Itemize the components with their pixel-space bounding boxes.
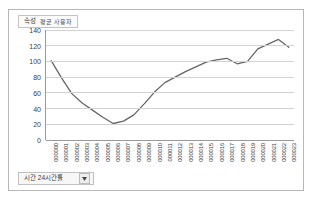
- x-axis-tick-label: 000015: [208, 143, 214, 162]
- plot-area: [45, 30, 294, 140]
- y-axis-tick-label: 140: [29, 27, 41, 34]
- x-axis-tick-label: 000007: [125, 143, 131, 162]
- chart-panel: 속성 평균 사용자 140120100806040200 00000000000…: [8, 9, 304, 191]
- legend-title: 속성: [24, 18, 36, 25]
- gridline: [46, 108, 294, 109]
- chevron-down-icon[interactable]: [79, 173, 90, 184]
- y-axis-tick-label: 40: [33, 105, 41, 112]
- x-axis-tick-label: 000022: [281, 143, 287, 162]
- x-axis-tick-label: 000008: [136, 143, 142, 162]
- gridline: [46, 77, 294, 78]
- x-axis-tick-label: 000023: [291, 143, 297, 162]
- x-axis-tick-label: 000004: [94, 143, 100, 162]
- gridline: [46, 30, 294, 31]
- gridline: [46, 45, 294, 46]
- legend: 속성 평균 사용자: [18, 15, 78, 28]
- x-axis-tick-label: 000005: [105, 143, 111, 162]
- y-axis-tick-label: 100: [29, 58, 41, 65]
- x-axis-tick-label: 000009: [146, 143, 152, 162]
- x-axis-tick-label: 000013: [188, 143, 194, 162]
- dropdown-label: 시간 24시간률: [24, 175, 63, 182]
- gridline: [46, 124, 294, 125]
- x-axis-tick-label: 000003: [84, 143, 90, 162]
- y-axis-tick-label: 20: [33, 121, 41, 128]
- gridline: [46, 61, 294, 62]
- plot-container: 140120100806040200 000000000001000002000…: [18, 30, 295, 180]
- gridline: [46, 92, 294, 93]
- x-axis-tick-label: 000017: [229, 143, 235, 162]
- x-axis-tick-label: 000019: [250, 143, 256, 162]
- y-axis-tick-label: 120: [29, 42, 41, 49]
- y-axis: 140120100806040200: [18, 30, 44, 140]
- y-axis-tick-label: 80: [33, 74, 41, 81]
- legend-series-label: 평균 사용자: [40, 19, 72, 25]
- y-axis-tick-label: 0: [37, 137, 41, 144]
- x-axis-tick-label: 000001: [63, 143, 69, 162]
- x-axis-tick-label: 000006: [115, 143, 121, 162]
- y-axis-tick-label: 60: [33, 89, 41, 96]
- x-axis-tick-label: 000014: [198, 143, 204, 162]
- x-axis-tick-label: 000018: [240, 143, 246, 162]
- x-axis-tick-label: 000011: [167, 143, 173, 161]
- time-range-dropdown[interactable]: 시간 24시간률: [18, 172, 94, 185]
- x-axis-tick-label: 000010: [157, 143, 163, 162]
- x-axis-tick-label: 000021: [271, 143, 277, 162]
- x-axis-tick-label: 000000: [53, 143, 59, 162]
- x-axis-tick-label: 000016: [219, 143, 225, 162]
- chart-screenshot: 속성 평균 사용자 140120100806040200 00000000000…: [0, 0, 314, 200]
- x-axis-tick-label: 000020: [260, 143, 266, 162]
- x-axis-tick-label: 000012: [177, 143, 183, 162]
- x-axis-tick-label: 000002: [74, 143, 80, 162]
